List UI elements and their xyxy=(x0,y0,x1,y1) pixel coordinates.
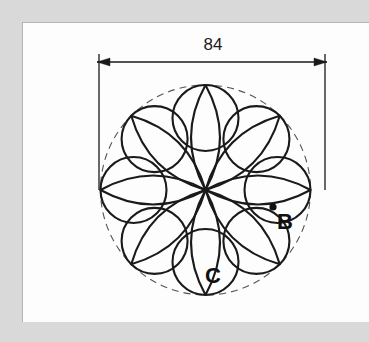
point-marker-b xyxy=(269,203,276,210)
rosette-petal xyxy=(101,176,206,205)
figure-page: 84 B C xyxy=(0,0,369,342)
point-label-b: B xyxy=(277,209,293,234)
dimension-value-label: 84 xyxy=(204,35,223,54)
geometric-figure: 84 B C xyxy=(0,0,369,342)
rosette-circle xyxy=(173,85,239,151)
rosette-circle xyxy=(101,157,167,223)
rosette-petal xyxy=(206,190,280,264)
rosette-petal xyxy=(206,116,280,190)
rosette-petal xyxy=(191,85,220,190)
point-label-c: C xyxy=(205,263,221,288)
rosette-petal xyxy=(131,116,205,190)
rosette-petal xyxy=(131,190,205,264)
rosette-petal xyxy=(206,176,311,205)
